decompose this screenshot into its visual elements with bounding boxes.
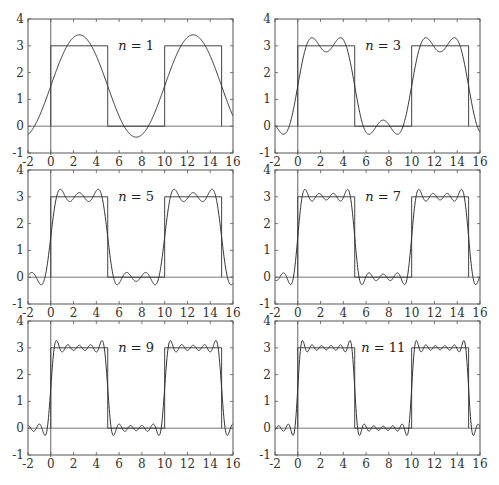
x-tick-label: 12 [180,155,195,169]
y-tick-label: -1 [12,297,24,311]
x-tick-label: 16 [472,457,487,471]
y-tick-label: 0 [263,119,271,133]
x-tick-label: 12 [180,306,195,320]
square-wave-line [298,46,469,126]
y-tick-label: 3 [16,341,24,355]
x-tick-label: 6 [362,306,370,320]
x-tick-label: 10 [157,306,172,320]
y-tick-label: 1 [263,243,271,257]
annotation-value: = 1 [127,38,154,53]
annotation-value: = 11 [370,340,406,355]
y-tick-label: 2 [263,66,271,80]
x-tick-label: 8 [138,306,146,320]
y-tick-label: 0 [263,270,271,284]
chart-panel-n7: -20246810121416-101234n = 7 [259,163,487,320]
x-tick-label: 14 [450,457,466,471]
y-tick-label: 1 [16,92,24,106]
x-tick-label: 4 [340,155,348,169]
annotation-value: = 9 [127,340,154,355]
chart-panel-n5: -20246810121416-101234n = 5 [12,163,240,320]
x-tick-label: 12 [427,306,442,320]
y-tick-label: 1 [263,394,271,408]
x-tick-label: 8 [138,155,146,169]
annotation-value: = 3 [374,38,401,53]
x-tick-label: 2 [317,306,325,320]
x-tick-label: 8 [385,155,393,169]
x-tick-label: 0 [294,306,302,320]
y-tick-label: 3 [263,341,271,355]
y-tick-label: -1 [12,448,24,462]
x-tick-label: 4 [340,306,348,320]
x-tick-label: 4 [93,306,101,320]
fourier-series-figure: -20246810121416-101234n = 1-202468101214… [0,0,499,485]
chart-panel-n1: -20246810121416-101234n = 1 [12,12,240,169]
y-tick-label: -1 [259,297,271,311]
y-tick-label: 2 [263,368,271,382]
x-tick-label: 12 [427,155,442,169]
y-tick-label: 4 [263,12,271,26]
x-tick-label: 0 [294,457,302,471]
x-tick-label: 10 [404,457,419,471]
x-tick-label: 4 [93,155,101,169]
x-tick-label: 10 [157,457,172,471]
x-tick-label: 16 [225,306,240,320]
panel-annotation: n = 9 [118,340,154,355]
x-tick-label: 12 [427,457,442,471]
x-tick-label: 14 [203,457,219,471]
panel-annotation: n = 5 [118,189,154,204]
y-tick-label: 3 [16,190,24,204]
x-tick-label: 16 [225,457,240,471]
annotation-variable: n [118,340,126,355]
y-tick-label: 3 [263,190,271,204]
x-tick-label: 6 [115,155,123,169]
x-tick-label: 8 [385,457,393,471]
panel-annotation: n = 1 [118,38,154,53]
panel-annotation: n = 3 [365,38,401,53]
x-tick-label: 10 [404,306,419,320]
annotation-value: = 5 [127,189,154,204]
y-tick-label: 4 [263,314,271,328]
y-tick-label: 4 [16,163,24,177]
y-tick-label: -1 [259,146,271,160]
y-tick-label: -1 [259,448,271,462]
x-tick-label: 0 [294,155,302,169]
y-tick-label: 4 [16,314,24,328]
x-tick-label: 16 [472,155,487,169]
x-tick-label: 6 [115,306,123,320]
panel-annotation: n = 11 [361,340,405,355]
chart-panel-n11: -20246810121416-101234n = 11 [259,314,487,471]
square-wave-line [51,348,222,428]
chart-panel-n9: -20246810121416-101234n = 9 [12,314,240,471]
x-tick-label: 14 [203,155,219,169]
annotation-variable: n [118,38,126,53]
x-tick-label: 0 [47,306,55,320]
x-tick-label: 0 [47,457,55,471]
x-tick-label: 10 [404,155,419,169]
annotation-variable: n [118,189,126,204]
panel-annotation: n = 7 [365,189,401,204]
square-wave-line [298,348,469,428]
square-wave-line [51,46,222,126]
x-tick-label: 2 [317,457,325,471]
y-tick-label: 4 [16,12,24,26]
y-tick-label: 2 [263,217,271,231]
x-tick-label: 12 [180,457,195,471]
x-tick-label: 16 [472,306,487,320]
annotation-value: = 7 [374,189,401,204]
x-tick-label: 2 [317,155,325,169]
x-tick-label: 2 [70,457,78,471]
x-tick-label: 8 [385,306,393,320]
y-tick-label: 1 [16,394,24,408]
x-tick-label: 6 [362,457,370,471]
square-wave-line [51,197,222,277]
x-tick-label: 6 [362,155,370,169]
y-tick-label: 4 [263,163,271,177]
y-tick-label: 3 [263,39,271,53]
y-tick-label: 0 [16,119,24,133]
annotation-variable: n [365,38,373,53]
annotation-variable: n [361,340,369,355]
annotation-variable: n [365,189,373,204]
y-tick-label: 1 [263,92,271,106]
y-tick-label: 0 [16,421,24,435]
y-tick-label: 1 [16,243,24,257]
